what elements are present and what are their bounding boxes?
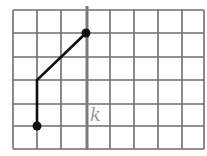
k-label: k bbox=[90, 104, 101, 125]
endpoint-top bbox=[82, 29, 91, 38]
grid-lines bbox=[13, 10, 204, 149]
grid-svg bbox=[0, 0, 207, 156]
grid-diagram: k bbox=[0, 0, 207, 156]
endpoint-bottom bbox=[33, 122, 42, 131]
